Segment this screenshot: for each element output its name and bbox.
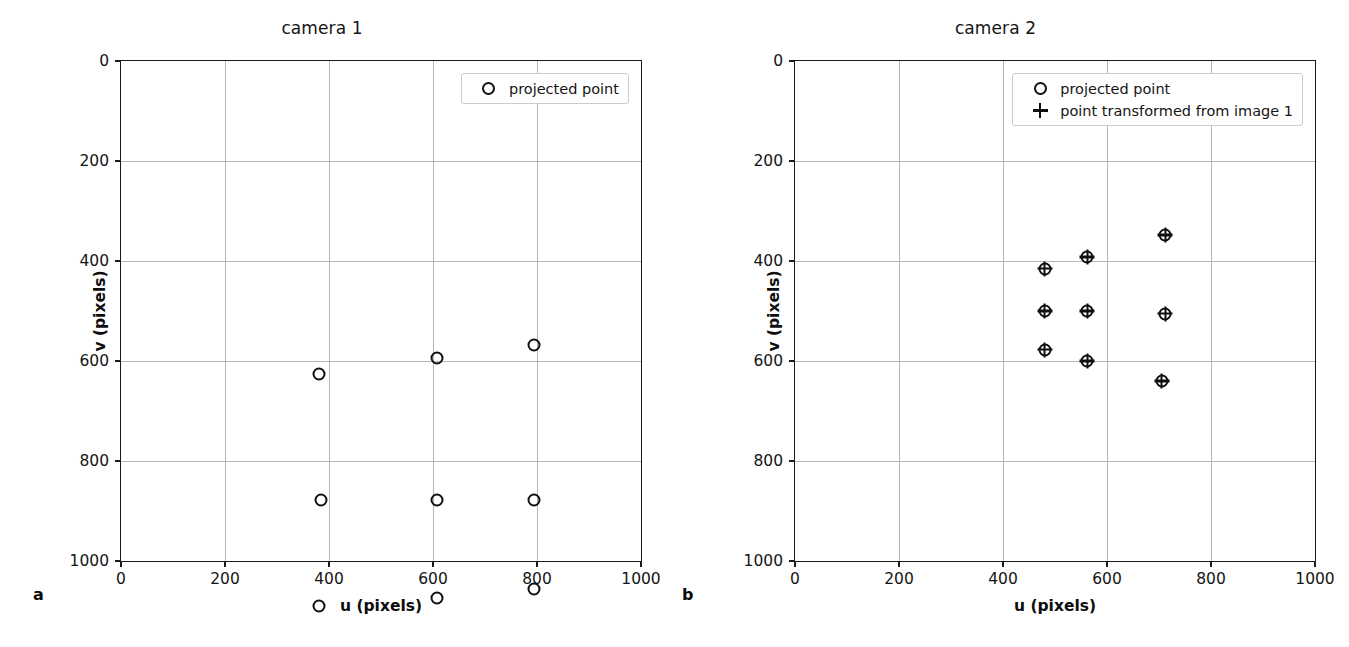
panel-camera-2: camera 2 0200400600800100002004006008001…	[672, 0, 1349, 647]
x-axis-tick	[224, 561, 225, 567]
x-axis-tick-label: 0	[790, 570, 800, 588]
y-axis-tick-label: 1000	[70, 552, 109, 570]
gridline-horizontal	[121, 261, 641, 262]
data-point-plus	[1080, 250, 1095, 265]
y-axis-tick-label: 400	[79, 252, 109, 270]
panel-camera-1: camera 1 0200400600800100002004006008001…	[0, 0, 672, 647]
gridline-vertical	[433, 61, 434, 561]
plot-area-camera-2: 0200400600800100002004006008001000 proje…	[794, 60, 1316, 562]
gridline-vertical	[1107, 61, 1108, 561]
legend-camera-1: projected point	[461, 73, 629, 104]
x-axis-tick	[1106, 561, 1107, 567]
y-axis-tick-label: 600	[79, 352, 109, 370]
data-point-plus	[1080, 354, 1095, 369]
data-point-plus	[1037, 304, 1052, 319]
y-axis-tick-label: 800	[753, 452, 783, 470]
x-axis-tick	[640, 561, 641, 567]
panel-b-title: camera 2	[672, 18, 1349, 38]
data-point-plus	[1154, 374, 1169, 389]
data-point-circle	[431, 351, 444, 364]
data-point-circle	[431, 591, 444, 604]
gridline-horizontal	[121, 161, 641, 162]
y-axis-title-a: v (pixels)	[91, 270, 109, 351]
circle-marker-icon	[469, 79, 509, 98]
gridline-vertical	[1211, 61, 1212, 561]
legend-label-projected-point: projected point	[1060, 81, 1170, 97]
y-axis-tick	[115, 60, 121, 61]
y-axis-tick	[115, 560, 121, 561]
y-axis-tick	[115, 260, 121, 261]
legend-entry-projected-point: projected point	[469, 79, 619, 98]
y-axis-tick	[789, 360, 795, 361]
legend-entry-transformed-point: point transformed from image 1	[1020, 101, 1293, 120]
y-axis-tick-label: 1000	[744, 552, 783, 570]
figure-root: camera 1 0200400600800100002004006008001…	[0, 0, 1349, 647]
x-axis-tick	[1314, 561, 1315, 567]
data-point-circle	[313, 367, 326, 380]
data-point-circle	[431, 493, 444, 506]
x-axis-title-b: u (pixels)	[1014, 597, 1096, 615]
plot-area-camera-1: 0200400600800100002004006008001000 proje…	[120, 60, 642, 562]
x-axis-tick	[536, 561, 537, 567]
x-axis-tick-label: 1000	[1295, 570, 1334, 588]
y-axis-tick	[789, 60, 795, 61]
y-axis-tick	[115, 160, 121, 161]
y-axis-tick-label: 800	[79, 452, 109, 470]
x-axis-tick	[794, 561, 795, 567]
panel-a-title: camera 1	[0, 18, 672, 38]
y-axis-tick	[789, 160, 795, 161]
gridline-vertical	[537, 61, 538, 561]
x-axis-tick-label: 0	[116, 570, 126, 588]
x-axis-tick-label: 400	[314, 570, 344, 588]
panel-letter-b: b	[682, 585, 693, 604]
x-axis-tick	[328, 561, 329, 567]
gridline-vertical	[1003, 61, 1004, 561]
plus-marker-icon	[1020, 101, 1060, 120]
y-axis-title-b: v (pixels)	[765, 270, 783, 351]
x-axis-tick-label: 200	[210, 570, 240, 588]
gridline-horizontal	[121, 461, 641, 462]
x-axis-tick-label: 600	[418, 570, 448, 588]
data-point-plus	[1037, 342, 1052, 357]
x-axis-tick	[898, 561, 899, 567]
y-axis-tick-label: 600	[753, 352, 783, 370]
data-point-plus	[1158, 228, 1173, 243]
gridline-vertical	[329, 61, 330, 561]
data-point-plus	[1158, 306, 1173, 321]
x-axis-tick	[1002, 561, 1003, 567]
x-axis-tick-label: 800	[1196, 570, 1226, 588]
y-axis-tick	[789, 260, 795, 261]
x-axis-tick-label: 200	[884, 570, 914, 588]
circle-marker-icon	[1020, 79, 1060, 98]
gridline-horizontal	[795, 261, 1315, 262]
data-point-circle	[528, 583, 541, 596]
y-axis-tick-label: 200	[753, 152, 783, 170]
gridline-vertical	[899, 61, 900, 561]
x-axis-tick	[1210, 561, 1211, 567]
data-point-circle	[313, 600, 326, 613]
x-axis-tick	[120, 561, 121, 567]
gridline-horizontal	[795, 361, 1315, 362]
y-axis-tick	[789, 460, 795, 461]
y-axis-tick	[115, 460, 121, 461]
gridline-horizontal	[121, 361, 641, 362]
x-axis-tick-label: 600	[1092, 570, 1122, 588]
data-point-plus	[1080, 304, 1095, 319]
x-axis-tick-label: 400	[988, 570, 1018, 588]
data-point-circle	[528, 493, 541, 506]
x-axis-tick	[432, 561, 433, 567]
x-axis-title-a: u (pixels)	[340, 597, 422, 615]
legend-camera-2: projected point point transformed from i…	[1012, 73, 1303, 126]
data-point-plus	[1037, 261, 1052, 276]
gridline-horizontal	[795, 161, 1315, 162]
data-point-circle	[314, 493, 327, 506]
gridline-horizontal	[795, 461, 1315, 462]
x-axis-tick-label: 1000	[621, 570, 660, 588]
data-point-circle	[528, 338, 541, 351]
y-axis-tick	[115, 360, 121, 361]
y-axis-tick-label: 0	[773, 52, 783, 70]
y-axis-tick-label: 0	[99, 52, 109, 70]
gridline-vertical	[225, 61, 226, 561]
panel-letter-a: a	[33, 585, 44, 604]
y-axis-tick-label: 200	[79, 152, 109, 170]
